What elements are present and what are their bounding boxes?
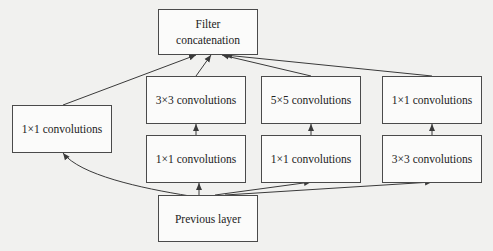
- col3-5x5-conv-node: 5×5 convolutions: [261, 76, 361, 124]
- col3-1x1-conv-node: 1×1 convolutions: [261, 135, 361, 183]
- node-label: 1×1 convolutions: [271, 151, 351, 167]
- concat-label-line2: concatenation: [176, 32, 240, 48]
- node-label: Previous layer: [175, 211, 241, 227]
- node-label: 5×5 convolutions: [271, 92, 351, 108]
- col2-3x3-conv-node: 3×3 convolutions: [146, 76, 246, 124]
- concat-label-line1: Filter: [196, 16, 221, 32]
- node-label: 1×1 convolutions: [392, 92, 472, 108]
- node-label: 1×1 convolutions: [22, 121, 102, 137]
- edge-col4-to-concat: [225, 55, 432, 76]
- filter-concatenation-node: Filter concatenation: [158, 9, 258, 55]
- edge-col2-to-concat: [196, 55, 211, 76]
- left-1x1-conv-node: 1×1 convolutions: [12, 105, 112, 153]
- col4-1x1-conv-node: 1×1 convolutions: [382, 76, 482, 124]
- previous-layer-node: Previous layer: [158, 195, 258, 242]
- node-label: 1×1 convolutions: [156, 151, 236, 167]
- edge-previous-to-col4: [225, 182, 432, 195]
- edge-col3-to-concat: [222, 55, 311, 76]
- col2-1x1-conv-node: 1×1 convolutions: [146, 135, 246, 183]
- col4-3x3-conv-node: 3×3 convolutions: [382, 135, 482, 183]
- node-label: 3×3 convolutions: [156, 92, 236, 108]
- node-label: 3×3 convolutions: [392, 151, 472, 167]
